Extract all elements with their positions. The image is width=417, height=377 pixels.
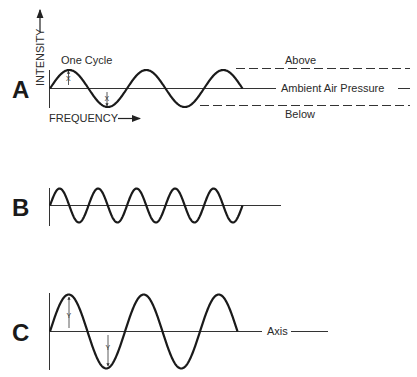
panel-a-letter: A [12, 76, 29, 103]
panel-c-letter: C [12, 319, 29, 346]
ambient-air-pressure-label: Ambient Air Pressure [281, 82, 384, 94]
panel-a: A INTENSITY X X One Cycle FREQUENCY Abov… [12, 10, 410, 124]
panel-c: C Y Y Axis [12, 293, 328, 370]
intensity-axis-label: INTENSITY [34, 28, 46, 86]
sound-wave-diagram: A INTENSITY X X One Cycle FREQUENCY Abov… [0, 0, 417, 377]
one-cycle-label: One Cycle [61, 54, 112, 66]
panel-b-letter: B [12, 194, 29, 221]
panel-b: B [12, 188, 281, 226]
above-label: Above [285, 54, 316, 66]
axis-label: Axis [267, 325, 288, 337]
amplitude-marker-y-top: Y [67, 312, 72, 319]
amplitude-marker-y-bottom: Y [106, 344, 111, 351]
frequency-axis-label: FREQUENCY [49, 112, 119, 124]
amplitude-marker-x-bottom: X [105, 95, 110, 102]
amplitude-marker-x-top: X [66, 75, 71, 82]
below-label: Below [285, 108, 315, 120]
